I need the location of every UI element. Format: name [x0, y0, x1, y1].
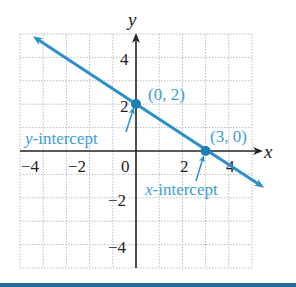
y-tick-4: 4: [120, 50, 129, 69]
y-axis-label: y: [126, 9, 137, 30]
x-intercept-point: [201, 146, 211, 156]
x-axis-label: x: [263, 141, 273, 162]
x-intercept-annotation: x-intercept: [144, 180, 218, 199]
y-intercept-point: [131, 99, 141, 109]
coordinate-graph: x y −4 −2 0 2 4 4 2 −2 −4 (0, 2) (3, 0) …: [0, 0, 296, 287]
x-intercept-coordinate-label: (3, 0): [210, 127, 247, 146]
x-tick-neg2: −2: [68, 157, 86, 176]
x-tick-neg4: −4: [21, 157, 40, 176]
y-tick-neg2: −2: [108, 191, 126, 210]
y-tick-neg4: −4: [108, 238, 127, 257]
graph-line: [37, 39, 136, 104]
x-tick-0: 0: [121, 157, 130, 176]
x-intercept-pointer-arrow: [196, 158, 203, 181]
x-tick-2: 2: [180, 157, 189, 176]
bottom-border-bar: [0, 283, 296, 287]
y-intercept-coordinate-label: (0, 2): [148, 85, 185, 104]
y-intercept-annotation: y-intercept: [23, 129, 98, 148]
